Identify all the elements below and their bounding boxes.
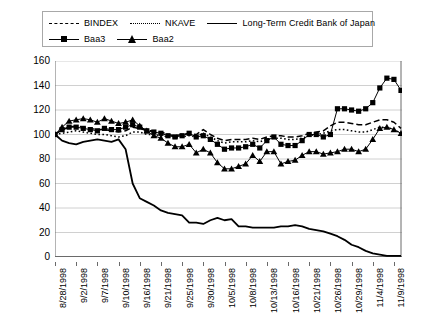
data-point-marker [80, 115, 87, 121]
x-axis-tick-label: 8/28/1998 [59, 268, 68, 308]
data-point-marker [129, 116, 136, 122]
data-point-marker [109, 127, 114, 132]
legend-item-baa2: Baa2 [117, 35, 173, 44]
data-point-marker [116, 127, 121, 132]
data-point-marker [349, 107, 354, 112]
series-line [55, 78, 401, 149]
data-point-marker [314, 132, 319, 137]
data-point-marker [377, 85, 382, 90]
x-axis-tick-label: 9/2/1998 [80, 268, 89, 303]
x-axis-tick [225, 262, 226, 266]
data-point-marker [292, 143, 297, 148]
data-point-marker [180, 133, 185, 138]
x-axis-tick [373, 262, 374, 266]
x-axis-tick-label: 10/16/1998 [292, 268, 301, 313]
y-axis: 020406080100120140160 [22, 56, 50, 262]
y-axis-tick-label: 140 [24, 81, 50, 91]
x-axis-tick-label: 10/21/1998 [313, 268, 322, 313]
legend-label-baa3: Baa3 [84, 35, 105, 44]
data-point-marker [398, 88, 402, 93]
x-axis-tick-label: 9/16/1998 [143, 268, 152, 308]
y-axis-tick-label: 120 [24, 105, 50, 115]
data-point-marker [383, 124, 390, 130]
data-point-marker [398, 130, 402, 136]
y-axis-tick-label: 160 [24, 56, 50, 66]
data-point-marker [342, 106, 347, 111]
dotted-line-icon [130, 19, 160, 28]
x-axis-tick [203, 262, 204, 266]
data-point-marker [130, 122, 135, 127]
series-line [55, 135, 401, 256]
x-axis-tick [97, 262, 98, 266]
data-point-marker [102, 126, 107, 131]
chart-svg [55, 61, 402, 257]
data-point-marker [208, 137, 213, 142]
x-axis-tick-label: 11/9/1998 [397, 268, 406, 307]
x-axis-tick-label: 10/26/1998 [334, 268, 343, 313]
x-axis-tick-label: 10/5/1998 [228, 268, 237, 308]
plot-area [55, 61, 402, 257]
data-point-marker [264, 138, 269, 143]
data-point-marker [101, 115, 108, 121]
y-axis-tick-label: 20 [24, 228, 50, 238]
x-axis-tick-label: 9/25/1998 [186, 268, 195, 308]
triangle-marker-line-icon [117, 35, 147, 44]
x-axis-tick [288, 262, 289, 266]
data-point-marker [363, 106, 368, 111]
x-axis: 8/28/19989/2/19989/7/19989/10/19989/16/1… [55, 262, 402, 314]
solid-line-icon [207, 19, 237, 28]
legend-item-ltcb: Long-Term Credit Bank of Japan [207, 19, 375, 28]
data-point-marker [271, 134, 276, 139]
data-point-marker [278, 142, 283, 147]
data-point-marker [165, 133, 170, 138]
y-axis-tick-label: 100 [24, 130, 50, 140]
x-axis-tick [119, 262, 120, 266]
data-point-marker [172, 134, 177, 139]
data-point-marker [307, 132, 312, 137]
data-point-marker [257, 145, 262, 150]
x-axis-tick [330, 262, 331, 266]
x-axis-tick-label: 9/7/1998 [101, 268, 110, 303]
x-axis-tick-label: 10/8/1998 [249, 268, 258, 308]
x-axis-tick-label: 9/21/1998 [164, 268, 173, 308]
data-point-marker [370, 100, 375, 105]
x-axis-tick-label: 10/13/1998 [270, 268, 279, 313]
legend-row-2: Baa3 Baa2 [49, 31, 366, 47]
legend-label-baa2: Baa2 [152, 35, 173, 44]
data-point-marker [249, 152, 256, 158]
data-point-marker [285, 143, 290, 148]
data-point-marker [292, 157, 299, 163]
data-point-marker [300, 138, 305, 143]
x-axis-tick-label: 11/4/1998 [376, 268, 385, 307]
y-axis-tick-label: 0 [24, 252, 50, 262]
legend-label-nkave: NKAVE [165, 19, 195, 28]
legend-label-ltcb: Long-Term Credit Bank of Japan [242, 19, 375, 28]
x-axis-tick [55, 262, 56, 266]
data-point-marker [391, 77, 396, 82]
square-marker-line-icon [49, 35, 79, 44]
data-point-marker [194, 134, 199, 139]
y-axis-tick-label: 40 [24, 203, 50, 213]
data-point-marker [335, 106, 340, 111]
y-axis-tick-label: 80 [24, 154, 50, 164]
data-point-marker [123, 125, 128, 130]
data-point-marker [186, 141, 193, 147]
x-axis-tick [161, 262, 162, 266]
x-axis-tick [182, 262, 183, 266]
data-point-marker [328, 132, 333, 137]
chart-legend: BINDEX NKAVE Long-Term Credit Bank of Ja… [42, 11, 373, 47]
data-point-marker [74, 125, 79, 130]
legend-item-bindex: BINDEX [49, 19, 118, 28]
x-axis-tick [246, 262, 247, 266]
data-point-marker [236, 145, 241, 150]
series-long-term-credit-bank-of-japan [55, 135, 401, 256]
data-point-marker [384, 76, 389, 81]
x-axis-tick [267, 262, 268, 266]
data-point-marker [243, 144, 248, 149]
data-point-marker [215, 142, 220, 147]
data-point-marker [81, 126, 86, 131]
x-axis-tick-label: 9/30/1998 [207, 268, 216, 308]
legend-row-1: BINDEX NKAVE Long-Term Credit Bank of Ja… [49, 15, 366, 31]
data-point-marker [356, 109, 361, 114]
legend-item-nkave: NKAVE [130, 19, 195, 28]
